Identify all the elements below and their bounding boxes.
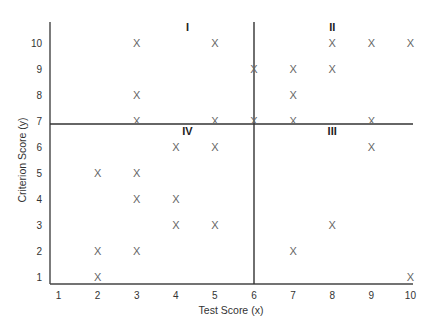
data-point: X [211,115,219,127]
data-point: X [250,115,258,127]
data-point: X [211,141,219,153]
data-point: X [211,37,219,49]
x-tick-label: 5 [212,290,218,301]
plot-area: 1234567891012345678910Test Score (x)Crit… [16,21,416,316]
data-point: X [133,37,141,49]
data-point: X [329,37,337,49]
x-tick-label: 4 [173,290,179,301]
data-point: X [133,115,141,127]
x-tick-label: 10 [405,290,417,301]
quadrant-label: IV [182,125,193,137]
data-point: X [94,245,102,257]
quadrant-label: II [329,21,335,33]
x-tick-label: 9 [369,290,375,301]
y-tick-label: 5 [36,168,42,179]
quadrant-label: I [186,21,189,33]
y-tick-label: 8 [36,90,42,101]
y-tick-label: 3 [36,220,42,231]
data-point: X [289,63,297,75]
x-tick-label: 3 [134,290,140,301]
data-point: X [289,245,297,257]
data-point: X [368,141,376,153]
data-point: X [94,167,102,179]
data-point: X [172,193,180,205]
data-point: X [172,141,180,153]
data-point: X [289,115,297,127]
scatter-chart: 1234567891012345678910Test Score (x)Crit… [0,0,438,329]
y-tick-label: 1 [36,272,42,283]
data-point: X [211,219,219,231]
x-tick-label: 6 [251,290,257,301]
data-point: X [289,89,297,101]
data-point: X [133,245,141,257]
data-point: X [368,37,376,49]
y-axis-label: Criterion Score (y) [16,117,28,202]
y-tick-label: 2 [36,246,42,257]
data-point: X [133,89,141,101]
data-point: X [368,115,376,127]
y-tick-label: 7 [36,116,42,127]
data-point: X [133,167,141,179]
x-tick-label: 2 [95,290,101,301]
y-tick-label: 10 [31,38,43,49]
data-point: X [250,63,258,75]
data-point: X [133,193,141,205]
y-tick-label: 9 [36,64,42,75]
data-point: X [407,37,415,49]
y-tick-label: 4 [36,194,42,205]
x-tick-label: 8 [329,290,335,301]
y-tick-label: 6 [36,142,42,153]
data-point: X [172,219,180,231]
x-tick-label: 1 [56,290,62,301]
data-point: X [329,219,337,231]
x-tick-label: 7 [290,290,296,301]
data-point: X [407,271,415,283]
data-point: X [94,271,102,283]
x-axis-label: Test Score (x) [199,304,264,316]
data-point: X [329,63,337,75]
quadrant-label: III [328,125,337,137]
